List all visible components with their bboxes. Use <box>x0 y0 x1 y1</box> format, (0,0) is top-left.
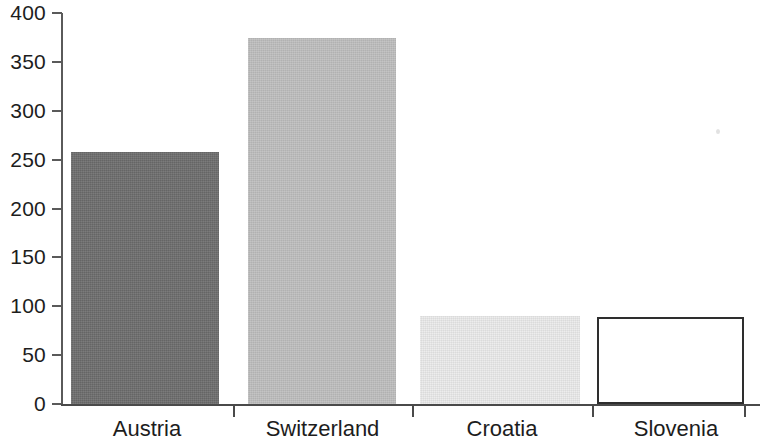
scan-artifact-speck <box>716 129 720 134</box>
y-tick-400 <box>52 12 62 14</box>
bar-switzerland <box>248 38 396 404</box>
x-tick-separator-2 <box>412 406 414 417</box>
y-tick-350 <box>52 61 62 63</box>
y-tick-label-150: 150 <box>10 246 46 267</box>
x-label-croatia: Croatia <box>412 417 592 441</box>
x-tick-separator-1 <box>233 406 235 417</box>
bar-slovenia <box>597 317 744 404</box>
y-tick-50 <box>52 354 62 356</box>
y-tick-label-400: 400 <box>10 2 46 23</box>
x-label-austria: Austria <box>61 417 233 441</box>
y-tick-150 <box>52 256 62 258</box>
x-label-switzerland: Switzerland <box>233 417 412 441</box>
x-label-slovenia: Slovenia <box>592 417 760 441</box>
y-tick-250 <box>52 159 62 161</box>
y-tick-100 <box>52 305 62 307</box>
x-axis-line <box>61 404 760 406</box>
y-tick-label-350: 350 <box>10 51 46 72</box>
y-tick-label-100: 100 <box>10 295 46 316</box>
bar-chart: 400 350 300 250 200 150 100 50 0 Austria… <box>0 0 760 443</box>
y-tick-label-300: 300 <box>10 100 46 121</box>
bar-austria <box>71 152 219 404</box>
y-tick-300 <box>52 110 62 112</box>
x-tick-separator-3 <box>592 406 594 417</box>
y-tick-label-0: 0 <box>34 393 46 414</box>
x-tick-separator-4 <box>744 406 746 417</box>
y-tick-200 <box>52 208 62 210</box>
y-tick-label-50: 50 <box>22 344 46 365</box>
y-tick-label-250: 250 <box>10 149 46 170</box>
y-tick-label-200: 200 <box>10 198 46 219</box>
bar-croatia <box>420 316 580 404</box>
